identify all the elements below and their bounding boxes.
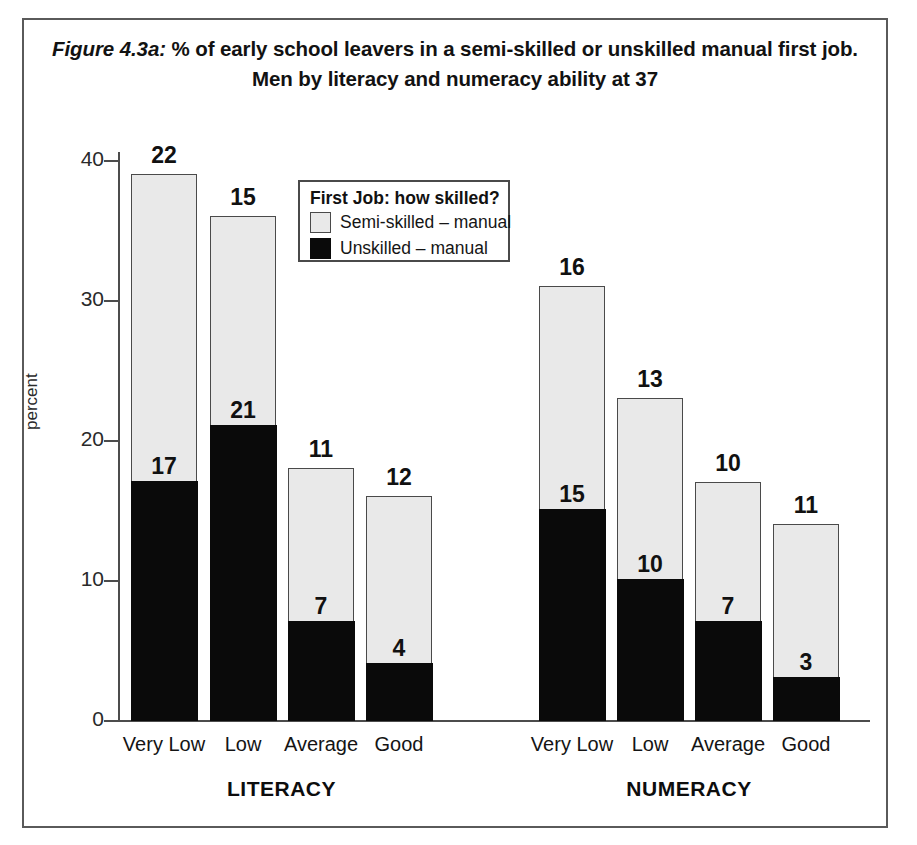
chart-plot-area: percent 010203040 2217152111712416151310… xyxy=(0,0,917,845)
legend-label-unskilled: Unskilled – manual xyxy=(340,238,488,259)
bar-value-label-unskilled: 15 xyxy=(540,481,604,508)
bar-value-label-semi-skilled: 12 xyxy=(367,464,431,491)
x-axis-label-numeracy-good: Good xyxy=(756,733,856,756)
bar-value-label-unskilled: 10 xyxy=(618,551,682,578)
bar-value-label-semi-skilled: 16 xyxy=(540,254,604,281)
bar-numeracy-good: 113 xyxy=(773,524,839,720)
bar-segment-unskilled xyxy=(366,663,433,721)
bar-numeracy-low: 1310 xyxy=(617,398,683,720)
bar-value-label-unskilled: 17 xyxy=(132,453,196,480)
bar-value-label-semi-skilled: 13 xyxy=(618,366,682,393)
bar-segment-unskilled xyxy=(288,621,355,721)
y-axis-tick-mark xyxy=(104,720,119,722)
y-axis-tick-label: 20 xyxy=(44,427,104,451)
bar-value-label-semi-skilled: 10 xyxy=(696,450,760,477)
bar-value-label-unskilled: 7 xyxy=(289,593,353,620)
bar-numeracy-average: 107 xyxy=(695,482,761,720)
legend-item-semi-skilled: Semi-skilled – manual xyxy=(310,209,500,235)
legend-swatch-unskilled-icon xyxy=(310,238,331,259)
bar-value-label-unskilled: 4 xyxy=(367,635,431,662)
bar-value-label-unskilled: 7 xyxy=(696,593,760,620)
y-axis-tick-label: 0 xyxy=(44,707,104,731)
y-axis-title: percent xyxy=(22,373,42,430)
chart-legend: First Job: how skilled? Semi-skilled – m… xyxy=(298,180,510,262)
y-axis-tick-label: 10 xyxy=(44,567,104,591)
bar-value-label-semi-skilled: 15 xyxy=(211,184,275,211)
bar-value-label-semi-skilled: 11 xyxy=(289,436,353,463)
bar-segment-unskilled xyxy=(773,677,840,721)
bar-value-label-semi-skilled: 11 xyxy=(774,492,838,519)
bar-segment-unskilled xyxy=(695,621,762,721)
figure-page: Figure 4.3a: % of early school leavers i… xyxy=(0,0,917,845)
bar-segment-unskilled xyxy=(210,425,277,721)
y-axis-tick-mark xyxy=(104,160,119,162)
bar-literacy-low: 1521 xyxy=(210,216,276,720)
y-axis-line xyxy=(118,152,120,722)
y-axis-tick-label: 40 xyxy=(44,147,104,171)
group-label-numeracy: NUMERACY xyxy=(539,777,839,801)
bar-value-label-unskilled: 21 xyxy=(211,397,275,424)
bar-segment-unskilled xyxy=(131,481,198,721)
y-axis-tick-mark xyxy=(104,300,119,302)
legend-label-semi-skilled: Semi-skilled – manual xyxy=(340,212,511,233)
bar-segment-unskilled xyxy=(539,509,606,721)
x-axis-label-literacy-good: Good xyxy=(349,733,449,756)
bar-segment-unskilled xyxy=(617,579,684,721)
y-axis-tick-mark xyxy=(104,440,119,442)
bar-literacy-very-low: 2217 xyxy=(131,174,197,720)
legend-swatch-semi-skilled-icon xyxy=(310,212,331,233)
bar-literacy-good: 124 xyxy=(366,496,432,720)
bar-literacy-average: 117 xyxy=(288,468,354,720)
y-axis-tick-mark xyxy=(104,580,119,582)
bar-value-label-semi-skilled: 22 xyxy=(132,142,196,169)
y-axis-tick-label: 30 xyxy=(44,287,104,311)
legend-item-unskilled: Unskilled – manual xyxy=(310,235,500,261)
group-label-literacy: LITERACY xyxy=(131,777,432,801)
bar-numeracy-very-low: 1615 xyxy=(539,286,605,720)
bar-value-label-unskilled: 3 xyxy=(774,649,838,676)
legend-title: First Job: how skilled? xyxy=(310,187,500,209)
